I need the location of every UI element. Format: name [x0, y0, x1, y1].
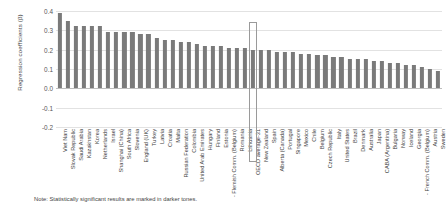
- category-label-slot: Hungary: [201, 129, 209, 191]
- bar-slot: [305, 11, 313, 127]
- bar-slot: [386, 11, 394, 127]
- category-label-slot: Korea: [88, 129, 96, 191]
- category-label-slot: New Zealand: [257, 129, 265, 191]
- y-tick-label: 0.2: [44, 46, 53, 53]
- category-label-slot: Austria: [426, 129, 434, 191]
- category-label-slot: Japan: [370, 129, 378, 191]
- bar: [162, 40, 166, 88]
- category-label-slot: Czech Republic: [321, 129, 329, 191]
- y-tick-label: -0.2: [42, 124, 53, 131]
- bar: [372, 61, 376, 88]
- bar-slot: [209, 11, 217, 127]
- category-label-slot: OECD average-31: [249, 129, 257, 191]
- bar: [243, 48, 247, 89]
- bar: [339, 57, 343, 88]
- bar: [146, 34, 150, 88]
- bar-slot: [257, 11, 265, 127]
- category-label-slot: Portugal: [281, 129, 289, 191]
- bar-slot: [161, 11, 169, 127]
- bar: [195, 44, 199, 88]
- bar-slot: [313, 11, 321, 127]
- bar-slot: [80, 11, 88, 127]
- category-label-slot: Belgium: [313, 129, 321, 191]
- bar-slot: [394, 11, 402, 127]
- bar-slot: [281, 11, 289, 127]
- bar: [138, 34, 142, 88]
- bar: [259, 50, 263, 89]
- bar: [179, 42, 183, 88]
- bar: [299, 54, 303, 89]
- category-label-slot: Norway: [394, 129, 402, 191]
- bar: [90, 26, 94, 88]
- category-label-slot: Sweden: [434, 129, 442, 191]
- bar-slot: [418, 11, 426, 127]
- category-label-slot: United Arab Emirates: [193, 129, 201, 191]
- bar-slot: [426, 11, 434, 127]
- category-label-slot: Croatia: [161, 129, 169, 191]
- bar: [436, 71, 440, 88]
- category-label-slot: Mexico: [297, 129, 305, 191]
- bar: [323, 55, 327, 88]
- bar: [58, 13, 62, 88]
- bar-slot: [96, 11, 104, 127]
- bar-slot: [402, 11, 410, 127]
- bar: [355, 59, 359, 88]
- bar: [331, 57, 335, 88]
- category-label-slot: Colombia: [185, 129, 193, 191]
- category-label-slot: Shanghai (China): [112, 129, 120, 191]
- bar-slot: [273, 11, 281, 127]
- category-label-slot: Malta: [169, 129, 177, 191]
- bar: [315, 55, 319, 88]
- bar-slot: [104, 11, 112, 127]
- bar-slot: [112, 11, 120, 127]
- category-label-slot: Brazil: [346, 129, 354, 191]
- bar-slot: [337, 11, 345, 127]
- bar-slot: [241, 11, 249, 127]
- category-label-slot: Lithuania: [241, 129, 249, 191]
- bar-slot: [144, 11, 152, 127]
- bar: [171, 40, 175, 88]
- bar-slot: [64, 11, 72, 127]
- bar-slot: [177, 11, 185, 127]
- bar-slot: [434, 11, 442, 127]
- bar-slot: [410, 11, 418, 127]
- y-tick-label: 0.1: [44, 66, 53, 73]
- bar-slot: [321, 11, 329, 127]
- bar: [404, 65, 408, 88]
- category-label-slot: Latvia: [153, 129, 161, 191]
- bar-slot: [346, 11, 354, 127]
- category-label-slot: CABA (Argentina): [378, 129, 386, 191]
- bar-slot: [370, 11, 378, 127]
- y-tick-label: 0.4: [44, 8, 53, 15]
- bar: [267, 50, 271, 89]
- y-tick-label: 0.3: [44, 27, 53, 34]
- bar: [428, 69, 432, 88]
- category-label-slot: Denmark: [354, 129, 362, 191]
- bar: [122, 32, 126, 88]
- bar: [187, 42, 191, 88]
- bar: [307, 54, 311, 89]
- bar: [275, 52, 279, 89]
- bar: [130, 32, 134, 88]
- bar-slot: [249, 11, 257, 127]
- category-label-slot: Estonia: [217, 129, 225, 191]
- bar-slot: [169, 11, 177, 127]
- bar: [412, 65, 416, 88]
- category-label-slot: Chile: [305, 129, 313, 191]
- bar: [74, 26, 78, 88]
- category-label-slot: Georgia: [410, 129, 418, 191]
- bar: [388, 63, 392, 88]
- bar: [227, 48, 231, 89]
- bar: [106, 32, 110, 88]
- chart-note: Note: Statistically significant results …: [34, 196, 197, 202]
- category-label-slot: England (UK): [136, 129, 144, 191]
- category-label-slot: Alberta (Canada): [273, 129, 281, 191]
- category-label-slot: Netherlands: [96, 129, 104, 191]
- bar: [291, 52, 295, 89]
- y-axis-title: Regression coefficients (β): [16, 0, 23, 113]
- category-label-slot: Australia: [362, 129, 370, 191]
- category-label-slot: Russian Federation: [177, 129, 185, 191]
- bar-slot: [362, 11, 370, 127]
- bar-slot: [88, 11, 96, 127]
